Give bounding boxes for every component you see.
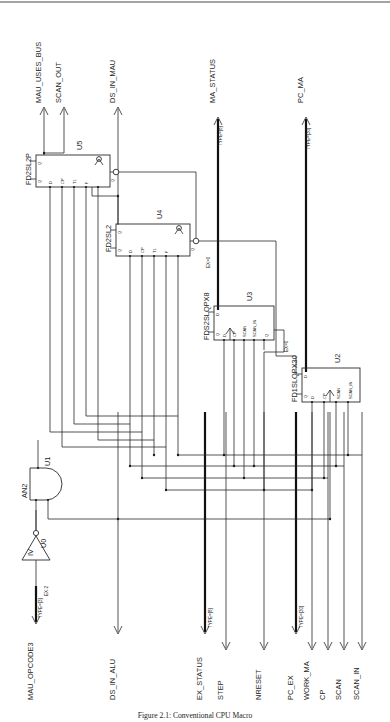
u3-pin-left-0: D xyxy=(215,313,220,316)
instance-u1[interactable]: U1 AN2 xyxy=(20,440,62,510)
u2-cell: FD1SLQPX30 xyxy=(290,355,299,402)
output-port-ds-in-mau: DS_IN_MAU xyxy=(108,60,122,225)
u2-pin-left-1: Q xyxy=(303,395,308,398)
input-port-mau-opcode3: MAU_OPCODE3 TYPE=[3] EX:2 xyxy=(26,586,49,700)
output-label-2: DS_IN_MAU xyxy=(108,60,117,103)
u4-pin-left-0: Q xyxy=(117,231,122,234)
u5-ref: U5 xyxy=(75,141,84,150)
u0-cell: IV xyxy=(26,549,35,556)
input-label-9: SCAN_IN xyxy=(352,667,361,700)
u4-pin-right-0: Q xyxy=(190,248,195,251)
u4-pin-bottom-0: D xyxy=(128,250,133,253)
output-port-ma-status: MA_STATUS TYPE=[8] xyxy=(208,59,223,310)
input-label-3: STEP xyxy=(216,680,225,700)
u4-pin-bottom-2: T1 xyxy=(152,248,157,253)
input-label-2: EX_STATUS xyxy=(195,657,204,700)
input-label-0: MAU_OPCODE3 xyxy=(26,642,35,700)
u4-ref: U4 xyxy=(155,210,164,219)
output-port-scan-out: SCAN_OUT xyxy=(54,62,68,153)
u3-pin-bottom-1: CP xyxy=(232,331,237,337)
input-label-6: WORK_MA xyxy=(302,661,311,700)
output-port-mau-uses-bus: MAU_USES_BUS xyxy=(34,42,48,136)
u2-pin-bottom-0: D xyxy=(310,396,315,399)
u4-pin-bottom-3: F xyxy=(164,250,169,253)
u5-pin-bottom-3: F xyxy=(84,181,89,184)
u5-pin-right-0: Q xyxy=(110,179,115,182)
figure-page: MAU_USES_BUS SCAN_OUT DS_IN_MAU MA_STATU… xyxy=(0,0,390,722)
output-label-4: PC_MA xyxy=(296,77,305,103)
u4-pin-bottom-1: CP xyxy=(140,247,145,253)
instance-u5[interactable]: U5 FD2SL2P Q Q D CP T1 F Q xyxy=(24,136,196,196)
output-label-1: SCAN_OUT xyxy=(54,62,63,103)
input-label-8: SCAN xyxy=(334,679,343,700)
input-note-0: EX:2 xyxy=(44,586,49,596)
u1-ref: U1 xyxy=(43,457,52,466)
output-label-3: MA_STATUS xyxy=(208,59,217,103)
u5-pin-left-0: Q xyxy=(37,162,42,165)
u3-annotation: EX=0 xyxy=(284,340,289,352)
u3-cell: FDS2SLQPX8 xyxy=(202,292,211,340)
u0-ref: U0 xyxy=(39,539,48,548)
input-label-7: CP xyxy=(318,690,327,700)
output-port-pc-ma: PC_MA TYPE=[30] xyxy=(296,77,311,372)
input-label-1: DS_IN_ALU xyxy=(108,659,117,700)
u5-pin-bottom-2: T1 xyxy=(72,179,77,184)
output-label-0: MAU_USES_BUS xyxy=(34,42,43,103)
u4-pin-left-1: Q xyxy=(117,249,122,252)
u3-pin-bottom-3: SCAN_IN xyxy=(252,320,257,337)
u2-ref: U2 xyxy=(333,354,342,363)
input-type-5: TYPE=[30] xyxy=(299,606,304,628)
instance-u2[interactable]: U2 FD1SLQPX30 D Q D CP SCAN SCAN_IN xyxy=(276,241,360,412)
u4-annotation: EX=0 xyxy=(206,256,211,268)
routing-net-bundle xyxy=(36,196,362,530)
u3-pin-bottom-0: D xyxy=(222,334,227,337)
input-label-5: PC_EX xyxy=(286,675,295,700)
instance-u4[interactable]: U4 FD2SL2 Q Q D CP T1 F Q xyxy=(92,172,276,268)
u2-pin-left-0: D xyxy=(303,375,308,378)
u3-pin-left-1: Q xyxy=(215,333,220,336)
input-type-0: TYPE=[3] xyxy=(38,598,43,618)
input-type-2: TYPE=[8] xyxy=(208,608,213,628)
u3-ref: U3 xyxy=(245,292,254,301)
input-port-ds-in-alu: DS_IN_ALU xyxy=(108,412,122,700)
output-type-4: TYPE=[30] xyxy=(306,128,311,150)
u5-pin-bottom-0: D xyxy=(48,181,53,184)
u2-pin-bottom-1: CP xyxy=(322,393,327,399)
u2-pin-bottom-2: SCAN xyxy=(336,388,341,399)
schematic-drawing: MAU_USES_BUS SCAN_OUT DS_IN_MAU MA_STATU… xyxy=(0,0,390,722)
u1-cell: AN2 xyxy=(20,484,29,498)
output-type-3: TYPE=[8] xyxy=(218,126,223,146)
input-label-4: NRESET xyxy=(254,669,263,700)
u5-cell: FD2SL2P xyxy=(24,153,33,185)
u3-pin-bottom-4: Q xyxy=(264,334,269,337)
figure-caption: Figure 2.1: Conventional CPU Macro xyxy=(0,711,390,720)
u2-pin-bottom-3: SCAN_IN xyxy=(348,382,353,399)
u5-pin-left-1: Q xyxy=(37,180,42,183)
u5-pin-bottom-1: CP xyxy=(60,178,65,184)
u3-pin-bottom-2: SCAN xyxy=(242,326,247,337)
